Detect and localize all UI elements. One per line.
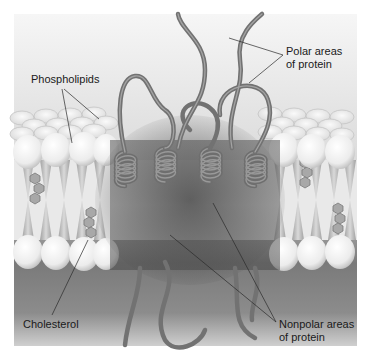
label-nonpolar-line1: Nonpolar areas <box>279 318 354 331</box>
membrane-diagram: Phospholipids Polar areas of protein Cho… <box>0 0 368 358</box>
label-phospholipids: Phospholipids <box>31 73 100 86</box>
label-nonpolar-areas: Nonpolar areas of protein <box>279 318 354 344</box>
label-polar-line1: Polar areas <box>286 45 342 58</box>
label-polar-areas: Polar areas of protein <box>286 45 342 71</box>
label-cholesterol: Cholesterol <box>23 318 79 331</box>
label-nonpolar-line2: of protein <box>279 331 354 344</box>
label-polar-line2: of protein <box>286 58 342 71</box>
